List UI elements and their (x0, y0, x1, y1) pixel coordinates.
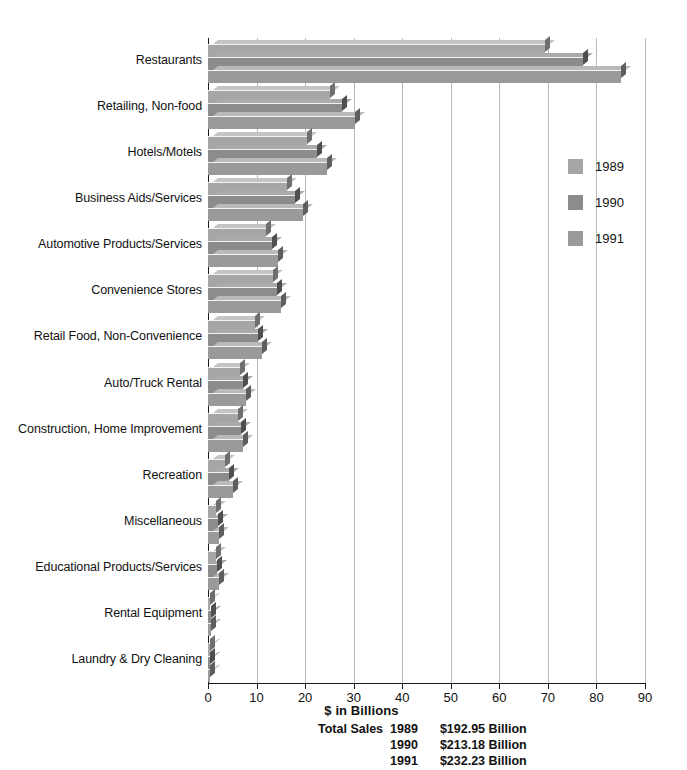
bar-front-face (208, 162, 327, 175)
bar-side-face (255, 313, 260, 329)
bar-side-face (281, 292, 286, 308)
bar-front-face (208, 208, 303, 221)
bar (208, 346, 262, 358)
y-axis-label: Auto/Truck Rental (0, 376, 202, 390)
legend-swatch-icon (568, 231, 583, 246)
bar-side-face (233, 477, 238, 493)
x-axis-title: $ in Billions (0, 703, 687, 718)
bar-front-face (208, 300, 281, 313)
bar-group (208, 367, 645, 405)
table-row: Total Sales1989$192.95 Billion (318, 722, 527, 738)
bar-side-face (243, 431, 248, 447)
bar-front-face (208, 70, 621, 83)
bar-side-face (258, 326, 263, 342)
legend: 198919901991 (568, 153, 678, 261)
y-axis-label: Automotive Products/Services (0, 237, 202, 251)
bar-side-face (210, 661, 215, 677)
x-tick-60 (499, 683, 500, 689)
bar (208, 208, 303, 220)
bar (208, 116, 355, 128)
legend-label: 1990 (595, 195, 624, 210)
total-sales-caption (318, 754, 390, 770)
bar (208, 669, 210, 681)
total-sales-year: 1990 (390, 738, 440, 754)
bar-group (208, 459, 645, 497)
x-tick-90 (645, 683, 646, 689)
bar-side-face (262, 339, 267, 355)
total-sales-block: Total Sales1989$192.95 Billion1990$213.1… (318, 722, 527, 770)
total-sales-caption (318, 738, 390, 754)
bar-side-face (238, 405, 243, 421)
legend-swatch-icon (568, 195, 583, 210)
bar-side-face (240, 359, 245, 375)
bar-group (208, 44, 645, 82)
bar-side-face (327, 154, 332, 170)
bar-side-face (278, 246, 283, 262)
y-axis-label: Convenience Stores (0, 283, 202, 297)
bar-front-face (208, 577, 219, 590)
total-sales-caption: Total Sales (318, 722, 390, 738)
bar-side-face (583, 49, 588, 65)
y-axis-label: Restaurants (0, 53, 202, 67)
legend-item[interactable]: 1990 (568, 189, 678, 215)
bar-side-face (330, 82, 335, 98)
bar-front-face (208, 623, 211, 636)
x-tick-70 (548, 683, 549, 689)
table-row: 1991$232.23 Billion (318, 754, 527, 770)
total-sales-value: $192.95 Billion (440, 722, 527, 738)
plot-area (208, 38, 645, 683)
legend-label: 1989 (595, 159, 624, 174)
bar-front-face (208, 485, 233, 498)
y-axis-label: Educational Products/Services (0, 560, 202, 574)
bar-front-face (208, 393, 246, 406)
bar (208, 162, 327, 174)
bar-front-face (208, 116, 355, 129)
bar (208, 439, 243, 451)
y-axis-label: Miscellaneous (0, 514, 202, 528)
bar-side-face (317, 141, 322, 157)
bar (208, 485, 233, 497)
bar (208, 623, 211, 635)
y-axis-label: Recreation (0, 468, 202, 482)
bar-side-face (545, 36, 550, 52)
gridline-90 (645, 38, 646, 683)
y-axis-label: Retailing, Non-food (0, 99, 202, 113)
bar-group (208, 274, 645, 312)
y-axis-label: Rental Equipment (0, 606, 202, 620)
bar-front-face (208, 254, 278, 267)
total-sales-table: Total Sales1989$192.95 Billion1990$213.1… (318, 722, 527, 770)
bar-side-face (243, 372, 248, 388)
bar-side-face (219, 569, 224, 585)
legend-item[interactable]: 1991 (568, 225, 678, 251)
bar-side-face (272, 233, 277, 249)
bar-front-face (208, 439, 243, 452)
bar-group (208, 551, 645, 589)
bar-side-face (273, 266, 278, 282)
bar-group (208, 90, 645, 128)
legend-item[interactable]: 1989 (568, 153, 678, 179)
bar (208, 300, 281, 312)
bar-side-face (211, 615, 216, 631)
total-sales-value: $232.23 Billion (440, 754, 527, 770)
bar-side-face (355, 108, 360, 124)
bar-side-face (621, 62, 626, 78)
bar-side-face (241, 418, 246, 434)
y-axis-label: Hotels/Motels (0, 145, 202, 159)
total-sales-year: 1991 (390, 754, 440, 770)
x-tick-30 (354, 683, 355, 689)
bar-side-face (225, 451, 230, 467)
x-axis-line (208, 683, 646, 684)
bar-front-face (208, 531, 219, 544)
x-tick-10 (257, 683, 258, 689)
bar (208, 254, 278, 266)
x-tick-0 (208, 683, 209, 689)
bar-side-face (266, 220, 271, 236)
bar-group (208, 505, 645, 543)
bar-group (208, 597, 645, 635)
bar (208, 393, 246, 405)
legend-label: 1991 (595, 231, 624, 246)
bar-side-face (295, 187, 300, 203)
total-sales-value: $213.18 Billion (440, 738, 527, 754)
y-axis-label: Retail Food, Non-Convenience (0, 329, 202, 343)
bar-group (208, 320, 645, 358)
